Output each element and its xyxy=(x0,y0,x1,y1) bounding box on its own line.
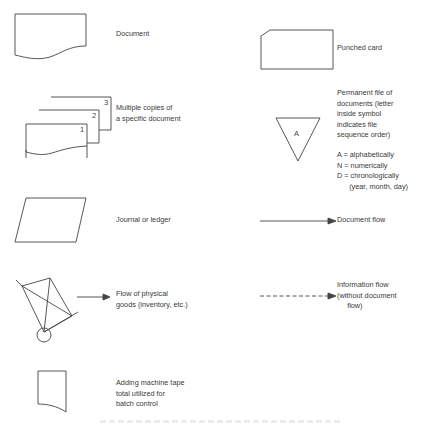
punched-card-icon xyxy=(260,29,336,71)
adding-machine-tape-icon xyxy=(37,370,69,414)
multiple-copies-icon: 3 2 1 xyxy=(14,96,114,156)
document-flow-arrow-icon xyxy=(259,217,339,225)
copy-number-2: 2 xyxy=(92,111,96,120)
physical-goods-label: Flow of physical goods (inventory, etc.) xyxy=(116,289,188,310)
information-flow-arrow-icon xyxy=(259,292,339,300)
figure-caption-cropped xyxy=(100,420,340,423)
hand-truck-icon xyxy=(14,278,104,348)
multiple-copies-bottom-curve xyxy=(14,150,90,170)
physical-goods-arrow-icon xyxy=(76,293,112,301)
permanent-file-label: Permanent file of documents (letter insi… xyxy=(337,88,393,141)
document-label: Document xyxy=(116,29,149,40)
document-flow-label: Document flow xyxy=(337,215,385,226)
permanent-file-key: A = alphabetically N = numerically D = c… xyxy=(337,150,408,192)
copy-number-3: 3 xyxy=(104,98,108,107)
copy-number-1: 1 xyxy=(80,125,84,134)
permanent-file-icon: A xyxy=(275,117,321,163)
document-icon xyxy=(14,13,90,63)
punched-card-label: Punched card xyxy=(337,43,382,54)
journal-ledger-icon xyxy=(14,197,89,243)
adding-machine-tape-label: Adding machine tape total utilized for b… xyxy=(116,378,185,410)
journal-ledger-label: Journal or ledger xyxy=(116,215,171,226)
information-flow-label: Information flow (without document flow) xyxy=(337,280,397,312)
file-sequence-letter: A xyxy=(294,129,299,138)
multiple-copies-label: Multiple copies of a specific document xyxy=(116,103,181,124)
